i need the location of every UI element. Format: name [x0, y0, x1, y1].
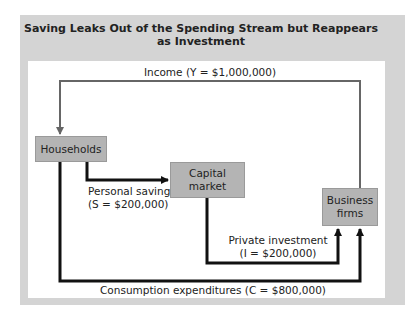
capital-market-node: Capital market [170, 162, 245, 198]
saving-label: Personal saving (S = $200,000) [88, 185, 168, 211]
investment-label: Private investment (I = $200,000) [228, 234, 328, 260]
investment-label-1: Private investment [228, 234, 328, 247]
business-label-2: firms [337, 207, 363, 220]
investment-label-2: (I = $200,000) [228, 247, 328, 260]
income-label: Income (Y = $1,000,000) [140, 66, 280, 79]
households-node: Households [35, 136, 107, 162]
saving-flow-line [87, 162, 168, 180]
saving-label-2: (S = $200,000) [88, 198, 168, 211]
business-label-1: Business [327, 194, 373, 207]
saving-label-1: Personal saving [88, 185, 168, 198]
business-firms-node: Business firms [322, 188, 378, 226]
households-label: Households [40, 143, 101, 156]
capital-market-label-1: Capital [189, 167, 226, 180]
consumption-label: Consumption expenditures (C = $800,000) [100, 284, 320, 297]
capital-market-label-2: market [189, 180, 226, 193]
